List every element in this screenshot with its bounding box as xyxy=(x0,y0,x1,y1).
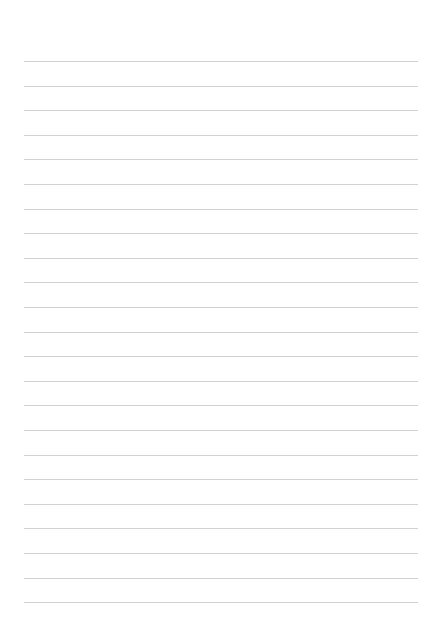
ruled-line xyxy=(24,258,418,259)
ruled-line xyxy=(24,602,418,603)
ruled-line xyxy=(24,86,418,87)
ruled-line xyxy=(24,381,418,382)
ruled-line xyxy=(24,110,418,111)
ruled-line xyxy=(24,430,418,431)
ruled-line xyxy=(24,455,418,456)
ruled-line xyxy=(24,479,418,480)
ruled-line xyxy=(24,578,418,579)
ruled-line xyxy=(24,209,418,210)
ruled-line xyxy=(24,307,418,308)
ruled-line xyxy=(24,332,418,333)
ruled-line xyxy=(24,159,418,160)
ruled-line xyxy=(24,61,418,62)
ruled-line xyxy=(24,184,418,185)
ruled-line xyxy=(24,528,418,529)
ruled-line xyxy=(24,233,418,234)
lined-paper-page xyxy=(0,0,439,631)
ruled-line xyxy=(24,356,418,357)
ruled-line xyxy=(24,553,418,554)
ruled-line xyxy=(24,504,418,505)
ruled-line xyxy=(24,405,418,406)
ruled-line xyxy=(24,282,418,283)
ruled-line xyxy=(24,135,418,136)
